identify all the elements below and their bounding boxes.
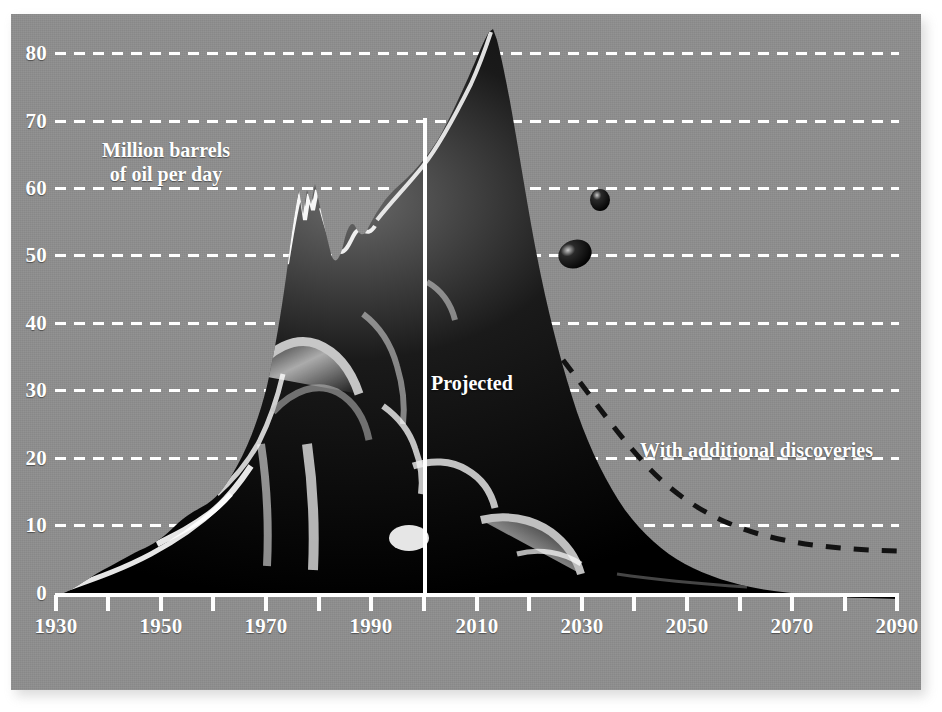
y-tick-80: 80: [11, 41, 47, 66]
oil-area-fill: [55, 29, 899, 599]
y-tick-40: 40: [11, 311, 47, 336]
additional-discoveries-label: With additional discoveries: [640, 439, 873, 462]
oil-area-series: [55, 29, 899, 599]
y-tick-30: 30: [11, 378, 47, 403]
chart-page: 80 70 60 50 40 30 20 10 0 1930 1950 1970…: [0, 0, 942, 712]
x-tick-2050: 2050: [652, 614, 722, 639]
x-tick-2010: 2010: [442, 614, 512, 639]
x-axis: [55, 595, 899, 611]
x-tick-2070: 2070: [757, 614, 827, 639]
y-axis-title-line2: of oil per day: [110, 163, 222, 185]
oil-droplet-large: [554, 235, 596, 274]
y-tick-10: 10: [11, 513, 47, 538]
projected-label: Projected: [431, 372, 513, 395]
y-tick-0: 0: [11, 581, 47, 606]
x-tick-1950: 1950: [126, 614, 196, 639]
y-tick-60: 60: [11, 176, 47, 201]
x-tick-1930: 1930: [21, 614, 91, 639]
oil-production-chart: [11, 14, 921, 690]
x-tick-2090: 2090: [862, 614, 921, 639]
oil-droplets: [554, 189, 610, 273]
oil-droplet-small: [590, 189, 610, 211]
x-tick-1990: 1990: [336, 614, 406, 639]
y-axis-title-line1: Million barrels: [102, 139, 230, 161]
y-tick-20: 20: [11, 446, 47, 471]
x-tick-2030: 2030: [547, 614, 617, 639]
y-axis-title: Million barrels of oil per day: [71, 138, 261, 186]
chart-panel: 80 70 60 50 40 30 20 10 0 1930 1950 1970…: [11, 14, 921, 690]
y-tick-50: 50: [11, 243, 47, 268]
y-tick-70: 70: [11, 109, 47, 134]
x-tick-1970: 1970: [231, 614, 301, 639]
